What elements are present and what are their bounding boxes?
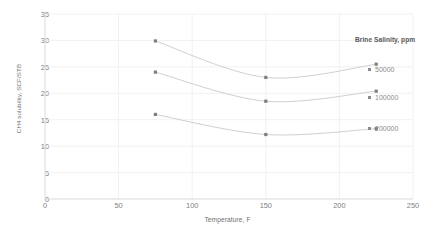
legend-title: Brine Salinity, ppm xyxy=(355,36,445,43)
data-point[interactable] xyxy=(375,90,378,93)
legend-marker-icon xyxy=(368,127,371,130)
legend-marker-icon xyxy=(368,68,371,71)
legend-label: 100000 xyxy=(375,94,398,101)
legend-label: 200000 xyxy=(375,125,398,132)
data-point[interactable] xyxy=(154,39,157,42)
data-point[interactable] xyxy=(264,133,267,136)
data-point[interactable] xyxy=(264,76,267,79)
legend-item[interactable]: 200000 xyxy=(368,125,398,132)
data-point[interactable] xyxy=(154,71,157,74)
chart-legend: Brine Salinity, ppm 50000100000200000 xyxy=(355,36,445,43)
data-point[interactable] xyxy=(154,113,157,116)
data-point[interactable] xyxy=(264,100,267,103)
legend-item[interactable]: 100000 xyxy=(368,94,398,101)
legend-marker-icon xyxy=(368,96,371,99)
chart-container: CH4 solubility, SCF/STB Temperature, F 0… xyxy=(0,0,445,235)
legend-item[interactable]: 50000 xyxy=(368,66,394,73)
legend-label: 50000 xyxy=(375,66,394,73)
